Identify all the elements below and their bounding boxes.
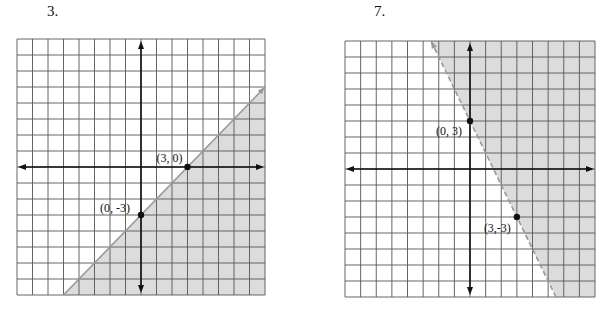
arrow-left-icon [346,166,354,172]
problem-number-7: 7. [374,3,385,20]
arrow-down-icon [467,287,473,295]
plotted-point [138,212,144,218]
plotted-point [467,118,473,124]
problem-number-3: 3. [47,3,58,20]
coordinate-graph-problem-7: (0, 3)(3,-3) [345,41,595,297]
arrow-left-icon [18,164,26,170]
plotted-point [514,214,520,220]
arrow-up-icon [138,41,144,49]
plotted-point [184,164,190,170]
point-label: (0, -3) [100,201,130,215]
point-label: (3, 0) [157,151,183,165]
coordinate-graph-problem-3: (3, 0)(0, -3) [17,39,265,295]
point-label: (0, 3) [436,124,462,138]
point-label: (3,-3) [484,221,511,235]
